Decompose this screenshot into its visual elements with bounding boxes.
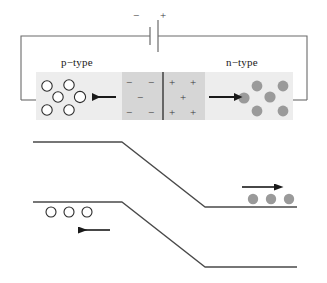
- battery-positive-label: +: [160, 10, 166, 21]
- hole-carrier: [64, 80, 74, 90]
- hole-carrier: [82, 207, 92, 217]
- electron-carrier: [278, 81, 289, 92]
- battery-negative-label: −: [133, 10, 139, 21]
- electron-carrier: [248, 194, 258, 204]
- hole-carrier: [74, 91, 85, 102]
- electron-carrier: [284, 194, 294, 204]
- hole-carrier: [46, 207, 56, 217]
- depletion-positive-sign: +: [190, 107, 196, 118]
- depletion-negative-sign: −: [137, 92, 143, 103]
- hole-carrier: [42, 105, 52, 115]
- hole-carrier: [64, 207, 74, 217]
- depletion-positive-sign: +: [190, 77, 196, 88]
- depletion-positive-sign: +: [169, 107, 175, 118]
- hole-carrier: [42, 81, 52, 91]
- energy-band-diagram: [33, 142, 297, 267]
- depletion-negative-sign: −: [148, 107, 154, 118]
- depletion-negative-sign: −: [126, 77, 132, 88]
- electron-carrier: [266, 194, 276, 204]
- band-diagram-holes: [46, 207, 110, 230]
- depletion-negative-sign: −: [148, 77, 154, 88]
- electron-carrier: [252, 81, 263, 92]
- electron-carrier: [264, 91, 275, 102]
- electron-carrier: [252, 106, 263, 117]
- depletion-negative-sign: −: [126, 107, 132, 118]
- electron-carrier: [278, 106, 289, 117]
- depletion-positive-sign: +: [180, 92, 186, 103]
- depletion-positive-sign: +: [169, 77, 175, 88]
- electron-carrier: [238, 92, 249, 103]
- p-type-label: p−type: [61, 57, 93, 68]
- n-type-label: n−type: [226, 57, 258, 68]
- battery-symbol: [150, 20, 158, 52]
- band-diagram-electrons: [242, 187, 294, 204]
- hole-carrier: [53, 92, 63, 102]
- pn-junction-figure: − + p−type n−type − − − − − + + + + +: [0, 0, 327, 283]
- hole-carrier: [64, 105, 74, 115]
- figure-canvas: [0, 0, 327, 283]
